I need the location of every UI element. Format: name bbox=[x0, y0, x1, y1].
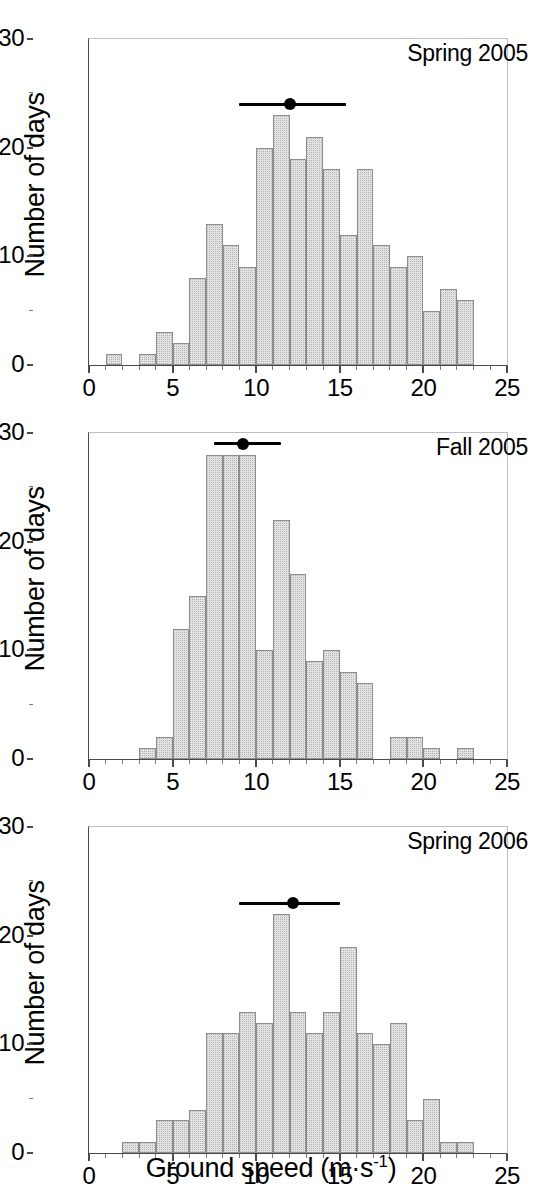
histogram-bar bbox=[357, 683, 374, 759]
histogram-bar bbox=[223, 245, 240, 365]
y-axis-label: Number of days bbox=[20, 414, 50, 744]
histogram-bar bbox=[239, 1012, 256, 1153]
histogram-bar bbox=[273, 914, 290, 1153]
tick-mark bbox=[373, 760, 374, 764]
histogram-bar bbox=[373, 1044, 390, 1153]
tick-mark bbox=[29, 704, 33, 705]
plot-area bbox=[89, 827, 507, 1153]
histogram-bar bbox=[340, 947, 357, 1153]
x-axis-tick-label: 0 bbox=[67, 375, 111, 401]
tick-mark bbox=[27, 147, 33, 149]
histogram-bar bbox=[173, 629, 190, 759]
tick-mark bbox=[206, 366, 207, 370]
y-axis-tick-label: 10 bbox=[0, 1030, 24, 1056]
panel-title: Spring 2006 bbox=[407, 828, 528, 854]
histogram-bar bbox=[139, 354, 156, 365]
tick-mark bbox=[88, 366, 90, 373]
x-axis-label-text: Ground speed (m bbox=[146, 1153, 352, 1183]
x-axis-tick-label: 0 bbox=[67, 769, 111, 795]
tick-mark bbox=[139, 366, 140, 370]
tick-mark bbox=[323, 760, 324, 764]
x-axis-tick-label: 15 bbox=[318, 769, 362, 795]
histogram-bar bbox=[173, 343, 190, 365]
x-axis-tick-label: 10 bbox=[234, 769, 278, 795]
histogram-bar bbox=[323, 1012, 340, 1153]
tick-mark bbox=[27, 935, 33, 937]
tick-mark bbox=[339, 366, 341, 373]
tick-mark bbox=[122, 760, 123, 764]
histogram-bar bbox=[223, 1033, 240, 1153]
histogram-bar bbox=[206, 1033, 223, 1153]
tick-mark bbox=[27, 649, 33, 651]
histogram-bar bbox=[290, 1012, 307, 1153]
histogram-bar bbox=[357, 169, 374, 365]
tick-mark bbox=[29, 989, 33, 990]
x-axis-tick-label: 5 bbox=[151, 375, 195, 401]
tick-mark bbox=[27, 758, 33, 760]
tick-mark bbox=[29, 201, 33, 202]
tick-mark bbox=[27, 826, 33, 828]
tick-mark bbox=[356, 366, 357, 370]
panel-title: Spring 2005 bbox=[407, 40, 528, 66]
tick-mark bbox=[239, 366, 240, 370]
tick-mark bbox=[155, 366, 156, 370]
x-axis-tick-label: 5 bbox=[151, 769, 195, 795]
tick-mark bbox=[506, 760, 508, 767]
histogram-bar bbox=[407, 737, 424, 759]
tick-mark bbox=[206, 760, 207, 764]
tick-mark bbox=[27, 432, 33, 434]
tick-mark bbox=[255, 366, 257, 373]
histogram-bar bbox=[189, 596, 206, 759]
histogram-bar bbox=[423, 748, 440, 759]
histogram-bar bbox=[206, 455, 223, 759]
histogram-bar bbox=[340, 672, 357, 759]
plot-area bbox=[89, 433, 507, 759]
tick-mark bbox=[456, 366, 457, 370]
tick-mark bbox=[389, 366, 390, 370]
x-axis-label-end: ) bbox=[388, 1153, 397, 1183]
histogram-bar bbox=[290, 159, 307, 365]
mean-dot-marker bbox=[237, 438, 249, 450]
y-axis-tick-label: 30 bbox=[0, 813, 24, 839]
panel-spring-2005: Spring 2005 Number of days 0102030051015… bbox=[0, 10, 542, 395]
tick-mark bbox=[27, 541, 33, 543]
tick-mark bbox=[289, 760, 290, 764]
x-axis-label-exponent: -1 bbox=[373, 1152, 388, 1171]
panel-spring-2006: Spring 2006 Number of days 0102030051015… bbox=[0, 798, 542, 1183]
tick-mark bbox=[27, 38, 33, 40]
tick-mark bbox=[155, 760, 156, 764]
tick-mark bbox=[27, 1043, 33, 1045]
y-axis-tick-label: 30 bbox=[0, 419, 24, 445]
histogram-bar bbox=[390, 737, 407, 759]
tick-mark bbox=[29, 486, 33, 487]
tick-mark bbox=[289, 366, 290, 370]
tick-mark bbox=[422, 760, 424, 767]
tick-mark bbox=[356, 760, 357, 764]
y-axis-tick-label: 30 bbox=[0, 25, 24, 51]
histogram-bar bbox=[390, 267, 407, 365]
histogram-bar bbox=[290, 574, 307, 759]
histogram-bar bbox=[273, 115, 290, 365]
y-axis-tick-label: 20 bbox=[0, 922, 24, 948]
x-axis-tick-label: 20 bbox=[401, 769, 445, 795]
x-axis-tick-label: 15 bbox=[318, 375, 362, 401]
histogram-bar bbox=[239, 267, 256, 365]
tick-mark bbox=[105, 366, 106, 370]
histogram-bar bbox=[256, 1023, 273, 1153]
histogram-bar bbox=[156, 332, 173, 365]
tick-mark bbox=[88, 760, 90, 767]
panel-title: Fall 2005 bbox=[436, 434, 528, 460]
tick-mark bbox=[272, 366, 273, 370]
y-axis-tick-label: 0 bbox=[11, 745, 24, 771]
x-axis-tick-label: 25 bbox=[485, 375, 529, 401]
histogram-bar bbox=[239, 455, 256, 759]
mean-dot-marker bbox=[284, 98, 296, 110]
histogram-bar bbox=[139, 748, 156, 759]
y-axis-tick-label: 10 bbox=[0, 636, 24, 662]
tick-mark bbox=[29, 595, 33, 596]
tick-mark bbox=[27, 364, 33, 366]
histogram-bar bbox=[457, 300, 474, 365]
tick-mark bbox=[105, 760, 106, 764]
histogram-bar bbox=[323, 650, 340, 759]
y-axis-label: Number of days bbox=[20, 808, 50, 1138]
